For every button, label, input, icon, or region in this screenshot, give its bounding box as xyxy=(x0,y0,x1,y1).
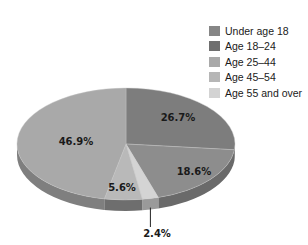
slice-value-label: 46.9% xyxy=(59,136,94,147)
legend-label: Age 25–44 xyxy=(225,56,276,68)
legend-label: Under age 18 xyxy=(225,25,289,37)
legend-swatch xyxy=(209,26,220,36)
slice-value-label: 5.6% xyxy=(108,182,136,193)
slice-value-label: 2.4% xyxy=(143,228,171,239)
legend-item-18-24: Age 18–24 xyxy=(209,39,302,55)
legend-swatch xyxy=(209,57,220,67)
legend-swatch xyxy=(209,72,220,82)
legend-swatch xyxy=(209,41,220,51)
slice-value-label: 26.7% xyxy=(161,112,196,123)
legend-swatch xyxy=(209,88,220,98)
legend-item-under-18: Under age 18 xyxy=(209,23,302,39)
pie-slice-side xyxy=(104,199,142,211)
legend-item-45-54: Age 45–54 xyxy=(209,70,302,86)
legend-label: Age 45–54 xyxy=(225,71,276,83)
legend-item-55-over: Age 55 and over xyxy=(209,85,302,101)
legend-label: Age 18–24 xyxy=(225,40,276,52)
slice-value-label: 18.6% xyxy=(177,166,212,177)
legend-label: Age 55 and over xyxy=(225,87,302,99)
legend: Under age 18 Age 18–24 Age 25–44 Age 45–… xyxy=(209,23,302,101)
legend-item-25-44: Age 25–44 xyxy=(209,54,302,70)
